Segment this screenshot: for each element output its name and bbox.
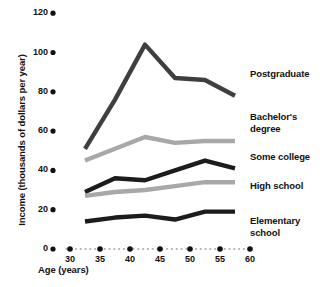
y-tick-label: 100 bbox=[22, 47, 48, 57]
y-axis-tick-dots bbox=[50, 11, 55, 252]
series-lines-group bbox=[85, 45, 235, 222]
x-tick-dot bbox=[97, 246, 103, 252]
y-tick-label: 60 bbox=[22, 125, 48, 135]
y-tick-label: 0 bbox=[22, 243, 48, 253]
y-tick-dot bbox=[50, 129, 55, 134]
y-tick-dot bbox=[50, 50, 55, 55]
chart-container: Income (thousands of dollars per year) A… bbox=[0, 0, 327, 287]
y-tick-label: 20 bbox=[22, 204, 48, 214]
x-tick-label: 55 bbox=[209, 254, 231, 264]
x-tick-dot bbox=[187, 246, 193, 252]
x-tick-dot bbox=[157, 246, 163, 252]
series-label: Postgraduate bbox=[250, 68, 310, 80]
x-tick-label: 50 bbox=[179, 254, 201, 264]
x-tick-label: 40 bbox=[119, 254, 141, 264]
series-label: Bachelor's degree bbox=[250, 111, 297, 134]
x-tick-label: 30 bbox=[59, 254, 81, 264]
x-tick-label: 35 bbox=[89, 254, 111, 264]
x-tick-label: 45 bbox=[149, 254, 171, 264]
y-tick-dot bbox=[50, 89, 55, 94]
series-line bbox=[85, 45, 235, 149]
x-tick-dot bbox=[217, 246, 223, 252]
series-line bbox=[85, 137, 235, 161]
y-tick-dot bbox=[50, 207, 55, 212]
x-tick-label: 60 bbox=[239, 254, 261, 264]
y-tick-dot bbox=[50, 11, 55, 16]
y-tick-dot bbox=[50, 168, 55, 173]
y-tick-dot bbox=[50, 246, 55, 251]
y-tick-label: 80 bbox=[22, 86, 48, 96]
series-label: High school bbox=[250, 180, 303, 192]
y-tick-label: 40 bbox=[22, 164, 48, 174]
y-tick-label: 120 bbox=[22, 7, 48, 17]
x-tick-dot bbox=[247, 246, 253, 252]
series-line bbox=[85, 212, 235, 222]
series-label: Some college bbox=[250, 151, 310, 163]
x-tick-dot bbox=[127, 246, 133, 252]
chart-plot-area bbox=[0, 0, 327, 287]
series-line bbox=[85, 182, 235, 196]
x-tick-dot bbox=[67, 246, 73, 252]
series-label: Elementary school bbox=[250, 215, 300, 238]
